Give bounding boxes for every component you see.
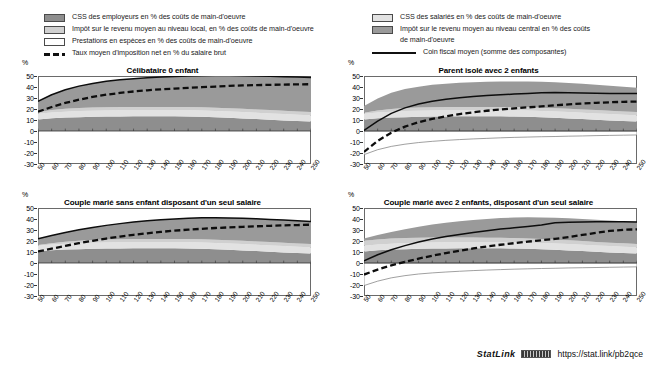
y-tick-mark xyxy=(360,87,363,88)
plot-svg xyxy=(38,76,311,164)
legend-item-taux-moyen-imposition-net: Taux moyen d'imposition net en % du sala… xyxy=(44,48,344,59)
y-axis-unit: % xyxy=(348,191,354,198)
panel-title: Couple marié avec 2 enfants, disposant d… xyxy=(326,198,651,207)
statlink-label: StatLink xyxy=(477,349,516,359)
y-tick-mark xyxy=(34,252,37,253)
y-tick-mark xyxy=(34,230,37,231)
y-tick-mark xyxy=(360,252,363,253)
y-axis: 50403020100-10-20-30 xyxy=(0,76,34,164)
y-tick-mark xyxy=(34,76,37,77)
y-axis-unit: % xyxy=(22,59,28,66)
y-tick-mark xyxy=(34,131,37,132)
y-tick-label: 50 xyxy=(328,205,360,212)
plot-area xyxy=(38,76,311,164)
y-tick-mark xyxy=(34,87,37,88)
y-tick-mark xyxy=(34,153,37,154)
y-tick-label: 20 xyxy=(2,106,34,113)
y-tick-label: 50 xyxy=(328,73,360,80)
plot-area xyxy=(38,208,311,296)
y-tick-label: -20 xyxy=(328,150,360,157)
y-tick-mark xyxy=(34,109,37,110)
y-tick-mark xyxy=(360,219,363,220)
legend-item-prestations: Prestations en espèces en % des coûts de… xyxy=(44,36,344,47)
y-tick-mark xyxy=(34,142,37,143)
y-tick-label: 10 xyxy=(2,249,34,256)
legend-label: Impôt sur le revenu moyen au niveau loca… xyxy=(72,24,314,34)
y-tick-mark xyxy=(34,219,37,220)
legend-label: Prestations en espèces en % des coûts de… xyxy=(72,36,252,46)
y-tick-label: 20 xyxy=(328,238,360,245)
chart-panel-couple-marie-sans-enfant: Couple marié sans enfant disposant d'un … xyxy=(0,196,325,328)
legend-item-coin-fiscal-moyen: Coin fiscal moyen (somme des composantes… xyxy=(372,47,648,58)
y-tick-label: 30 xyxy=(2,95,34,102)
area-band-negative xyxy=(364,131,637,155)
chart-legend: CSS des employeurs en % des coûts de mai… xyxy=(0,12,651,64)
chart-panel-couple-marie-2-enfants: Couple marié avec 2 enfants, disposant d… xyxy=(326,196,651,328)
y-tick-mark xyxy=(360,274,363,275)
y-tick-label: -20 xyxy=(2,150,34,157)
legend-column-left: CSS des employeurs en % des coûts de mai… xyxy=(44,12,344,60)
y-axis: 50403020100-10-20-30 xyxy=(326,208,360,296)
legend-label: CSS des employeurs en % des coûts de mai… xyxy=(72,12,245,22)
plot-svg xyxy=(38,208,311,296)
y-tick-label: -20 xyxy=(2,282,34,289)
x-axis: 5060708090100110120130140150160170180190… xyxy=(364,297,637,325)
y-tick-label: -10 xyxy=(328,139,360,146)
y-tick-label: -30 xyxy=(328,161,360,168)
y-tick-label: 20 xyxy=(328,106,360,113)
dashed-line-sample-icon xyxy=(44,50,65,58)
y-axis: 50403020100-10-20-30 xyxy=(326,76,360,164)
panel-title: Célibataire 0 enfant xyxy=(0,66,325,75)
y-tick-mark xyxy=(34,98,37,99)
y-tick-label: 0 xyxy=(328,128,360,135)
y-tick-mark xyxy=(34,120,37,121)
y-tick-mark xyxy=(360,98,363,99)
area-band xyxy=(38,76,311,112)
area-band-negative xyxy=(364,263,637,286)
y-tick-mark xyxy=(360,153,363,154)
panel-title: Parent isolé avec 2 enfants xyxy=(326,66,651,75)
legend-label: Impôt sur le revenu moyen au niveau cent… xyxy=(400,24,590,34)
legend-item-impot-central-line2: de main-d'oeuvre xyxy=(400,35,648,46)
chart-panel-celibataire-0-enfant: Célibataire 0 enfant % 50403020100-10-20… xyxy=(0,64,325,194)
y-tick-label: 10 xyxy=(2,117,34,124)
solid-line-sample-icon xyxy=(372,49,416,57)
y-tick-label: 40 xyxy=(2,216,34,223)
y-tick-label: 0 xyxy=(328,260,360,267)
y-axis-unit: % xyxy=(22,191,28,198)
x-axis: 5060708090100110120130140150160170180190… xyxy=(38,297,311,325)
y-tick-label: -30 xyxy=(2,161,34,168)
legend-item-impot-local: Impôt sur le revenu moyen au niveau loca… xyxy=(44,24,344,35)
swatch-pale-gray-icon xyxy=(372,14,393,22)
y-tick-mark xyxy=(360,131,363,132)
y-axis: 50403020100-10-20-30 xyxy=(0,208,34,296)
x-axis: 5060708090100110120130140150160170180190… xyxy=(38,165,311,193)
y-tick-mark xyxy=(34,263,37,264)
swatch-white-icon xyxy=(44,38,65,46)
y-tick-label: -30 xyxy=(328,293,360,300)
legend-label: Coin fiscal moyen (somme des composantes… xyxy=(423,47,566,57)
swatch-dark-gray-icon xyxy=(44,14,65,22)
y-tick-mark xyxy=(360,230,363,231)
plot-svg xyxy=(364,208,637,296)
y-tick-mark xyxy=(360,285,363,286)
y-tick-mark xyxy=(34,285,37,286)
statlink-url[interactable]: https://stat.link/pb2qce xyxy=(557,349,643,359)
plot-area xyxy=(364,208,637,296)
panel-title: Couple marié sans enfant disposant d'un … xyxy=(0,198,325,207)
statlink-barcode-icon xyxy=(521,350,551,358)
y-tick-mark xyxy=(360,241,363,242)
y-tick-label: 10 xyxy=(328,117,360,124)
y-tick-label: 50 xyxy=(2,205,34,212)
y-tick-mark xyxy=(360,263,363,264)
y-tick-label: -30 xyxy=(2,293,34,300)
swatch-mid-gray-icon xyxy=(372,26,393,34)
legend-label: CSS des salariés en % des coûts de main-… xyxy=(400,12,561,22)
y-tick-label: -10 xyxy=(328,271,360,278)
chart-panel-parent-isole-2-enfants: Parent isolé avec 2 enfants % 5040302010… xyxy=(326,64,651,194)
y-tick-label: -10 xyxy=(2,139,34,146)
y-tick-mark xyxy=(34,208,37,209)
swatch-light-gray-icon xyxy=(44,26,65,34)
y-tick-mark xyxy=(360,76,363,77)
legend-label: de main-d'oeuvre xyxy=(400,35,455,45)
